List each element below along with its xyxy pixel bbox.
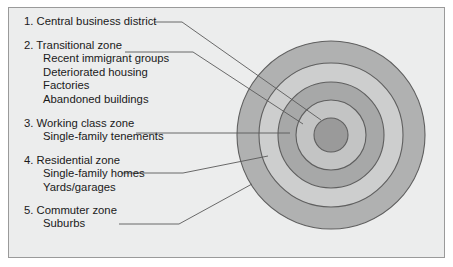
legend-title-zone-2: 2. Transitional zone bbox=[24, 38, 224, 52]
legend-title-zone-4: 4. Residential zone bbox=[24, 153, 224, 167]
legend-entry-zone-2: 2. Transitional zone Recent immigrant gr… bbox=[24, 38, 224, 106]
legend-entry-zone-3: 3. Working class zone Single-family tene… bbox=[24, 116, 224, 144]
legend-item-zone-3-0: Single-family tenements bbox=[24, 130, 224, 144]
legend-item-zone-2-2: Factories bbox=[24, 79, 224, 93]
legend-item-zone-2-1: Deteriorated housing bbox=[24, 66, 224, 80]
legend-item-zone-2-0: Recent immigrant groups bbox=[24, 52, 224, 66]
legend-item-zone-2-3: Abandoned buildings bbox=[24, 93, 224, 107]
legend-entry-zone-5: 5. Commuter zone Suburbs bbox=[24, 203, 224, 231]
legend-title-zone-1: 1. Central business district bbox=[24, 14, 224, 28]
diagram-page: 1. Central business district 2. Transiti… bbox=[0, 0, 453, 267]
legend-entry-zone-4: 4. Residential zone Single-family homes … bbox=[24, 153, 224, 194]
legend-spacer-2 bbox=[24, 106, 224, 116]
legend-spacer-1 bbox=[24, 28, 224, 38]
legend-entry-zone-1: 1. Central business district bbox=[24, 14, 224, 28]
legend-spacer-3 bbox=[24, 144, 224, 153]
legend-item-zone-5-0: Suburbs bbox=[24, 217, 224, 231]
legend-title-zone-5: 5. Commuter zone bbox=[24, 203, 224, 217]
zone-ring-1 bbox=[314, 118, 348, 152]
legend-spacer-4 bbox=[24, 194, 224, 203]
legend-item-zone-4-0: Single-family homes bbox=[24, 167, 224, 181]
legend-item-zone-4-1: Yards/garages bbox=[24, 181, 224, 195]
legend-title-zone-3: 3. Working class zone bbox=[24, 116, 224, 130]
zone-legend: 1. Central business district 2. Transiti… bbox=[24, 14, 224, 231]
